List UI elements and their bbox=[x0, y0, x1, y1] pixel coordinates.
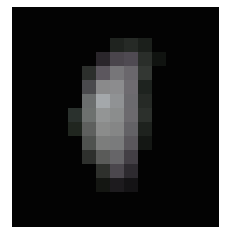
image-pixel bbox=[110, 66, 124, 80]
image-pixel bbox=[110, 94, 124, 108]
image-pixel bbox=[96, 52, 110, 66]
image-pixel bbox=[138, 52, 152, 66]
image-pixel bbox=[124, 80, 138, 94]
image-pixel bbox=[82, 94, 96, 108]
image-pixel bbox=[96, 164, 110, 178]
image-pixel bbox=[138, 136, 152, 150]
image-pixel bbox=[138, 94, 152, 108]
image-frame bbox=[12, 7, 219, 227]
image-pixel bbox=[96, 80, 110, 94]
image-pixel bbox=[124, 38, 138, 52]
image-pixel bbox=[82, 80, 96, 94]
image-pixel bbox=[110, 164, 124, 178]
image-pixel bbox=[124, 164, 138, 178]
image-pixel bbox=[138, 80, 152, 94]
image-pixel bbox=[82, 150, 96, 164]
image-pixel bbox=[138, 66, 152, 80]
image-pixel bbox=[124, 108, 138, 122]
image-pixel bbox=[152, 52, 166, 66]
image-pixel bbox=[124, 150, 138, 164]
image-pixel bbox=[124, 52, 138, 66]
image-pixel bbox=[110, 122, 124, 136]
image-pixel bbox=[138, 38, 152, 52]
image-pixel bbox=[124, 178, 138, 192]
image-pixel bbox=[96, 94, 110, 108]
image-pixel bbox=[138, 108, 152, 122]
image-pixel bbox=[82, 108, 96, 122]
image-pixel bbox=[96, 66, 110, 80]
image-pixel bbox=[124, 94, 138, 108]
image-pixel bbox=[124, 66, 138, 80]
image-pixel bbox=[96, 150, 110, 164]
image-pixel bbox=[96, 108, 110, 122]
image-pixel bbox=[138, 122, 152, 136]
image-pixel bbox=[110, 38, 124, 52]
image-pixel bbox=[96, 178, 110, 192]
image-pixel bbox=[110, 80, 124, 94]
image-pixel bbox=[68, 122, 82, 136]
image-pixel bbox=[96, 122, 110, 136]
image-pixel bbox=[124, 122, 138, 136]
image-pixel bbox=[110, 150, 124, 164]
image-pixel bbox=[110, 52, 124, 66]
image-pixel bbox=[82, 122, 96, 136]
image-pixel bbox=[82, 66, 96, 80]
image-pixel bbox=[124, 136, 138, 150]
image-pixel bbox=[68, 108, 82, 122]
image-pixel bbox=[110, 178, 124, 192]
image-pixel bbox=[110, 136, 124, 150]
image-pixel bbox=[110, 108, 124, 122]
image-pixel bbox=[82, 136, 96, 150]
image-pixel bbox=[96, 136, 110, 150]
